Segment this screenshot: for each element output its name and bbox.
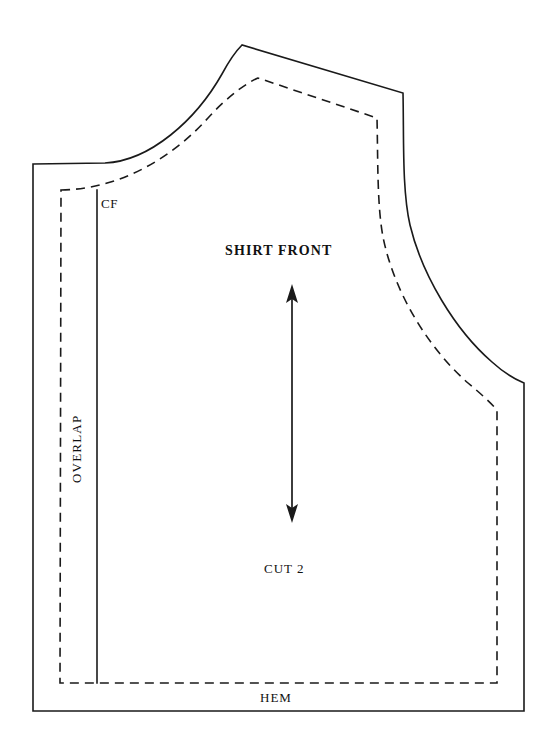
pattern-drawing bbox=[0, 0, 554, 747]
pattern-sheet: CF SHIRT FRONT CUT 2 HEM OVERLAP bbox=[0, 0, 554, 747]
center-front-label: CF bbox=[101, 196, 118, 212]
overlap-label: OVERLAP bbox=[69, 415, 85, 483]
cutting-line-path bbox=[33, 45, 524, 711]
cut-quantity-label: CUT 2 bbox=[264, 561, 305, 577]
stitching-line-path bbox=[60, 78, 497, 683]
hem-label: HEM bbox=[260, 690, 292, 706]
grainline-arrow bbox=[286, 284, 298, 523]
page-title: SHIRT FRONT bbox=[225, 243, 332, 259]
